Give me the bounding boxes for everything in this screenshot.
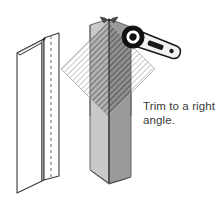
bead-outline-left-flange <box>17 40 42 193</box>
figure-caption: Trim to a right angle. <box>143 100 217 127</box>
corner-bead-outline <box>17 33 59 193</box>
figure-corner-bead-trim: Trim to a right angle. <box>0 0 222 210</box>
